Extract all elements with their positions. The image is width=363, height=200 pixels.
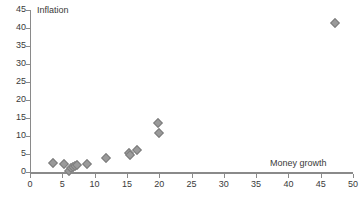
data-point — [154, 129, 164, 139]
data-point — [48, 158, 58, 168]
data-point — [83, 159, 93, 169]
data-point — [101, 153, 111, 163]
data-point — [330, 18, 340, 28]
data-point — [153, 118, 163, 128]
